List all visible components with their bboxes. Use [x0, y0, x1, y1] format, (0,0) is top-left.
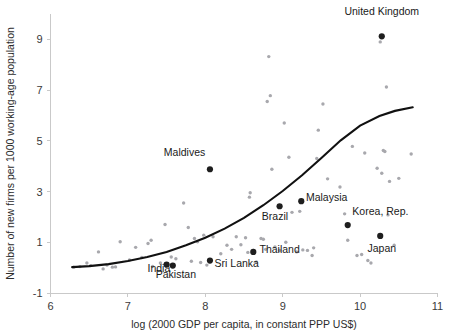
- data-point: [114, 265, 117, 268]
- data-point: [383, 150, 386, 153]
- data-point: [338, 185, 341, 188]
- data-point: [317, 128, 320, 131]
- y-tick-label: 1: [36, 236, 42, 248]
- data-point: [239, 243, 242, 246]
- data-point: [149, 239, 152, 242]
- data-point: [202, 233, 205, 236]
- data-point: [193, 237, 196, 240]
- y-tick-label: 7: [36, 84, 42, 96]
- y-tick-label: 5: [36, 135, 42, 147]
- data-point: [287, 156, 290, 159]
- y-tick-label: -1: [33, 287, 43, 299]
- data-point: [366, 259, 369, 262]
- x-tick-label: 9: [280, 300, 286, 312]
- chart-canvas: -11357967891011 United KingdomMaldivesMa…: [0, 0, 461, 336]
- data-point: [97, 250, 100, 253]
- data-point: [397, 177, 400, 180]
- data-point: [355, 254, 358, 257]
- data-point: [351, 145, 354, 148]
- country-label-japan: Japan: [367, 242, 396, 254]
- data-point: [310, 254, 313, 257]
- country-label-sri-lanka: Sri Lanka: [215, 257, 260, 269]
- data-point: [187, 226, 190, 229]
- data-point: [134, 246, 137, 249]
- country-label-brazil: Brazil: [262, 210, 288, 222]
- data-point: [298, 210, 301, 213]
- y-tick-label: 3: [36, 186, 42, 198]
- trend-curve: [72, 107, 413, 267]
- data-point: [326, 177, 329, 180]
- data-point: [262, 238, 265, 241]
- unlabeled-data-points: [72, 40, 413, 270]
- data-point: [301, 248, 304, 251]
- data-point: [321, 102, 324, 105]
- data-point: [246, 251, 249, 254]
- x-tick-label: 6: [47, 300, 53, 312]
- data-point: [369, 261, 372, 264]
- data-point: [163, 223, 166, 226]
- country-label-thailand: Thailand: [259, 243, 299, 255]
- data-point: [380, 172, 383, 175]
- data-point: [363, 151, 366, 154]
- data-point: [205, 263, 208, 266]
- country-label-korea-rep: Korea, Rep.: [352, 205, 408, 217]
- data-point: [235, 235, 238, 238]
- data-point: [267, 55, 270, 58]
- data-point: [290, 211, 293, 214]
- axis-titles: log (2000 GDP per capita, in constant PP…: [4, 27, 357, 330]
- data-point: [190, 260, 193, 263]
- data-point: [360, 253, 363, 256]
- highlighted-point-brazil: [277, 203, 283, 209]
- country-label-united-kingdom: United Kingdom: [344, 5, 419, 17]
- data-point: [101, 267, 104, 270]
- highlighted-point-sri-lanka: [207, 257, 213, 263]
- country-label-pakistan: Pakistan: [156, 268, 196, 280]
- data-point: [248, 191, 251, 194]
- data-point: [375, 167, 378, 170]
- data-point: [219, 252, 222, 255]
- country-label-malaysia: Malaysia: [306, 191, 348, 203]
- data-point: [346, 239, 349, 242]
- data-point: [283, 121, 286, 124]
- data-point: [230, 248, 233, 251]
- highlighted-point-maldives: [207, 166, 213, 172]
- fitted-trend-line: [72, 107, 413, 267]
- data-point: [146, 242, 149, 245]
- data-point: [182, 201, 185, 204]
- highlighted-point-thailand: [250, 249, 256, 255]
- highlighted-point-japan: [377, 233, 383, 239]
- data-point: [244, 236, 247, 239]
- data-point: [118, 240, 121, 243]
- x-tick-label: 11: [432, 300, 443, 312]
- highlighted-point-malaysia: [298, 198, 304, 204]
- data-point: [312, 246, 315, 249]
- scatter-chart-figure: -11357967891011 United KingdomMaldivesMa…: [0, 0, 461, 336]
- y-tick-label: 9: [36, 33, 42, 45]
- data-point: [199, 261, 202, 264]
- data-point: [174, 257, 177, 260]
- data-point: [379, 40, 382, 43]
- data-point: [409, 152, 412, 155]
- highlighted-point-korea-rep: [345, 222, 351, 228]
- country-labels: United KingdomMaldivesMalaysiaBrazilKore…: [147, 5, 419, 280]
- data-point: [266, 100, 269, 103]
- data-point: [343, 212, 346, 215]
- country-label-maldives: Maldives: [164, 146, 205, 158]
- data-point: [85, 261, 88, 264]
- data-point: [225, 244, 228, 247]
- x-tick-label: 7: [125, 300, 131, 312]
- data-point: [248, 195, 251, 198]
- data-point: [385, 85, 388, 88]
- x-axis-title: log (2000 GDP per capita, in constant PP…: [131, 318, 357, 330]
- highlighted-point-united-kingdom: [379, 33, 385, 39]
- data-point: [269, 94, 272, 97]
- x-tick-label: 10: [354, 300, 366, 312]
- y-axis-title: Number of new firms per 1000 working-age…: [4, 27, 16, 280]
- x-tick-label: 8: [202, 300, 208, 312]
- data-point: [306, 249, 309, 252]
- data-point: [388, 180, 391, 183]
- data-point: [170, 255, 173, 258]
- data-point: [270, 168, 273, 171]
- data-point: [111, 265, 114, 268]
